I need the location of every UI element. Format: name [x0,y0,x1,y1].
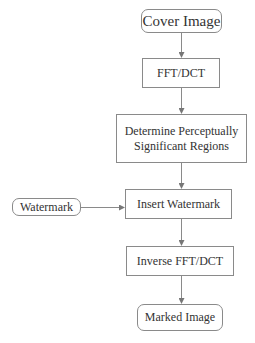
node-fft-dct: FFT/DCT [142,58,220,88]
node-label: Watermark [20,200,73,214]
node-label: Insert Watermark [137,197,220,211]
node-cover-image: Cover Image [141,9,222,33]
node-label: Marked Image [145,310,215,324]
node-label: FFT/DCT [157,66,205,80]
node-insert-watermark: Insert Watermark [125,189,232,219]
node-label-line2: Significant Regions [125,139,239,153]
node-label: Cover Image [143,12,221,30]
node-label: Inverse FFT/DCT [137,254,223,268]
node-marked-image: Marked Image [137,304,223,331]
connector-layer [0,0,255,343]
node-inverse-fft-dct: Inverse FFT/DCT [126,246,234,276]
node-watermark: Watermark [12,198,81,216]
node-determine-regions: Determine Perceptually Significant Regio… [116,114,247,163]
node-label-line1: Determine Perceptually [125,124,239,138]
